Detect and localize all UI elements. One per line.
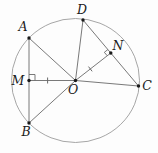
- point-label-O: O: [68, 82, 78, 97]
- point-label-M: M: [11, 73, 26, 88]
- geometry-figure: ABCDMNO: [0, 0, 158, 153]
- tick-mark-ON: [88, 67, 92, 72]
- segment-DO: [76, 20, 84, 81]
- segment-ON: [76, 53, 111, 81]
- point-label-A: A: [17, 19, 27, 34]
- point-label-N: N: [112, 38, 125, 53]
- right-angle-mark-N: [104, 50, 108, 56]
- segment-AO: [29, 38, 76, 81]
- circle-geometry-diagram: ABCDMNO: [0, 0, 158, 153]
- point-label-C: C: [142, 78, 152, 93]
- point-dot-D: [81, 18, 84, 21]
- point-dot-M: [27, 79, 30, 82]
- segment-OC: [76, 81, 139, 87]
- point-dot-C: [137, 84, 140, 87]
- point-label-B: B: [20, 124, 30, 139]
- point-label-D: D: [76, 2, 87, 17]
- point-dot-A: [27, 36, 30, 39]
